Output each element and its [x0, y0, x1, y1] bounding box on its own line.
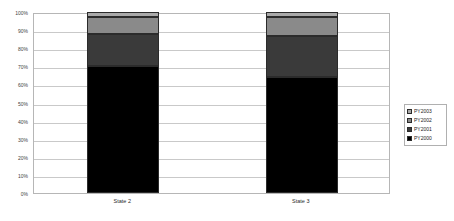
y-tick-label: 0% [21, 191, 28, 197]
plot-area [33, 13, 390, 194]
legend-swatch-icon [407, 136, 412, 141]
legend-item[interactable]: PY2003 [407, 107, 444, 116]
legend-item[interactable]: PY2001 [407, 125, 444, 134]
bar-stack [266, 14, 338, 193]
y-tick-label: 90% [18, 28, 28, 34]
y-tick-label: 10% [18, 173, 28, 179]
legend-label: PY2002 [414, 116, 432, 125]
legend-label: PY2003 [414, 107, 432, 116]
legend-label: PY2001 [414, 125, 432, 134]
bar-segment[interactable] [87, 12, 159, 17]
legend-swatch-icon [407, 127, 412, 132]
y-tick-label: 30% [18, 137, 28, 143]
legend-swatch-icon [407, 109, 412, 114]
stacked-bar-chart: 0%10%20%30%40%50%60%70%80%90%100% State … [0, 0, 454, 221]
x-axis: State 2State 3 [33, 196, 390, 210]
bar-segment[interactable] [266, 36, 338, 78]
legend-item[interactable]: PY2000 [407, 134, 444, 143]
chart-legend: PY2003PY2002PY2001PY2000 [404, 104, 447, 146]
x-tick-label: State 2 [114, 198, 131, 204]
legend-item[interactable]: PY2002 [407, 116, 444, 125]
bar-segment[interactable] [87, 66, 159, 193]
y-tick-label: 70% [18, 64, 28, 70]
bar-segment[interactable] [87, 17, 159, 33]
bar-segment[interactable] [266, 17, 338, 35]
bar-stack [87, 14, 159, 193]
bar-group [266, 14, 338, 193]
bar-group [87, 14, 159, 193]
y-tick-label: 80% [18, 46, 28, 52]
x-tick-label: State 3 [292, 198, 309, 204]
bar-segment[interactable] [266, 12, 338, 17]
y-tick-label: 50% [18, 101, 28, 107]
y-tick-label: 100% [15, 10, 28, 16]
y-axis: 0%10%20%30%40%50%60%70%80%90%100% [0, 13, 31, 194]
legend-swatch-icon [407, 118, 412, 123]
y-tick-label: 20% [18, 155, 28, 161]
y-tick-label: 60% [18, 82, 28, 88]
y-tick-label: 40% [18, 119, 28, 125]
bar-segment[interactable] [266, 77, 338, 193]
bar-segment[interactable] [87, 34, 159, 67]
legend-label: PY2000 [414, 134, 432, 143]
